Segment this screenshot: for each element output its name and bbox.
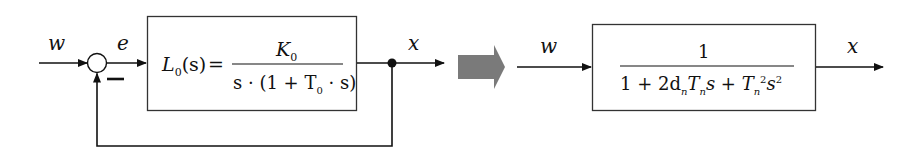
output-label-x-right: x (847, 34, 858, 58)
transform-arrow-icon (458, 45, 505, 89)
equals-sign: = (208, 53, 224, 75)
closed-loop-transfer-block (593, 25, 816, 111)
left-diagram: w e L0(s) = K0 s · (1 + T0 · s) x (39, 17, 444, 147)
input-label-w-right: w (540, 34, 557, 58)
block-diagram: w e L0(s) = K0 s · (1 + T0 · s) x w (0, 0, 921, 155)
error-label-e: e (117, 31, 129, 55)
open-loop-denominator: s · (1 + T0 · s) (233, 72, 356, 96)
closed-loop-numerator: 1 (698, 41, 709, 62)
right-diagram: w 1 1 + 2dnTns + Tn2s2 x (517, 25, 883, 111)
input-label-w: w (48, 31, 65, 55)
summing-junction (88, 54, 107, 73)
output-label-x: x (408, 31, 419, 55)
